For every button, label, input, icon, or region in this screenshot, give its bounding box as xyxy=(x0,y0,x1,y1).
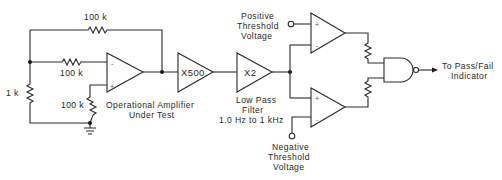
resistor-label-feedback: 100 k xyxy=(84,12,107,22)
arrow-right-icon xyxy=(432,68,438,73)
filter-caption-line1: Low Pass xyxy=(236,95,276,105)
circuit-diagram: 100 k 100 k 100 k 1 k - + Operational Am… xyxy=(0,0,502,180)
op-amp-label-line2: Under Test xyxy=(129,110,175,120)
svg-text:-: - xyxy=(111,60,114,67)
op-amp-under-test: - + xyxy=(107,53,178,92)
svg-text:+: + xyxy=(315,95,320,102)
terminal-icon xyxy=(288,21,294,27)
svg-text:+: + xyxy=(110,83,115,90)
gain-stage-x500: X500 xyxy=(178,53,237,92)
junction-dot xyxy=(88,121,92,125)
negative-threshold-line1: Negative xyxy=(272,142,309,152)
svg-text:X500: X500 xyxy=(181,67,205,78)
resistor-label-input: 100 k xyxy=(60,68,83,78)
svg-text:X2: X2 xyxy=(244,67,256,78)
op-amp-label-line1: Operational Amplifier xyxy=(106,100,194,110)
ground-icon xyxy=(84,128,96,134)
inverter-bubble-icon xyxy=(414,68,419,73)
negative-threshold-line2: Threshold xyxy=(268,152,310,162)
svg-text:+: + xyxy=(315,21,320,28)
filter-stage-x2: X2 xyxy=(237,53,292,92)
svg-text:-: - xyxy=(316,116,319,123)
upper-comparator: + - xyxy=(288,13,384,63)
lower-comparator: + - xyxy=(289,78,384,139)
svg-text:-: - xyxy=(316,42,319,49)
positive-threshold-line2: Threshold xyxy=(237,21,279,31)
nand-gate-icon xyxy=(384,58,413,82)
negative-threshold-line3: Voltage xyxy=(273,162,304,172)
positive-threshold-line3: Voltage xyxy=(241,31,272,41)
terminal-icon xyxy=(289,133,295,139)
junction-dot xyxy=(160,70,164,74)
positive-threshold-line1: Positive xyxy=(241,11,274,21)
output-label-line2: Indicator xyxy=(451,71,488,81)
resistor-label-ground: 100 k xyxy=(61,100,84,110)
output-label-line1: To Pass/Fail xyxy=(442,61,494,71)
filter-caption-line3: 1.0 Hz to 1 kHz xyxy=(219,115,284,125)
junction-dot xyxy=(28,60,32,64)
nand-gate xyxy=(384,58,438,82)
resistor-label-shunt: 1 k xyxy=(6,88,19,98)
filter-caption-line2: Filter xyxy=(242,105,264,115)
